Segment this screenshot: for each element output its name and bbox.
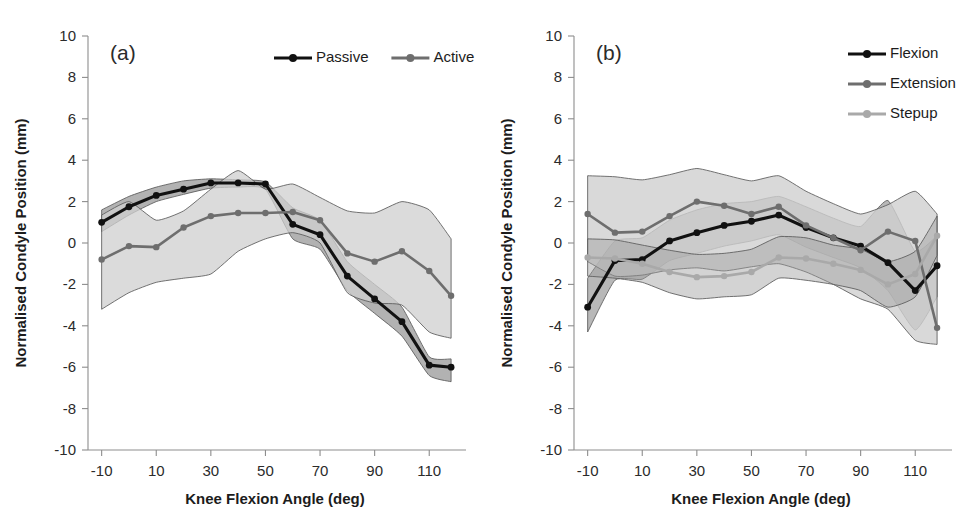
legend-label: Extension (890, 74, 956, 91)
data-point-marker (371, 258, 377, 264)
legend-group: FlexionExtensionStepup (848, 44, 956, 121)
x-tick-label: 50 (257, 462, 274, 479)
data-point-marker (776, 254, 782, 260)
data-point-marker (235, 180, 242, 187)
x-tick-label: 10 (148, 462, 165, 479)
data-point-marker (207, 180, 214, 187)
x-tick-label: 110 (903, 462, 927, 479)
y-tick-label: 6 (554, 110, 562, 127)
data-point-marker (426, 268, 432, 274)
data-point-marker (448, 364, 455, 371)
y-tick-label: 8 (68, 68, 76, 85)
legend-label: Passive (316, 48, 369, 65)
data-point-marker (426, 362, 433, 369)
data-point-marker (857, 267, 863, 273)
x-tick-label: 90 (366, 462, 383, 479)
data-point-marker (98, 219, 105, 226)
y-tick-label: 10 (545, 27, 562, 44)
legend-entry-flexion[interactable]: Flexion (848, 44, 938, 61)
data-point-marker (153, 244, 159, 250)
x-tick-label: 10 (634, 462, 651, 479)
data-point-marker (912, 271, 918, 277)
y-tick-label: 10 (59, 27, 76, 44)
data-point-marker (830, 235, 836, 241)
data-point-marker (721, 273, 727, 279)
data-point-marker (721, 222, 728, 229)
data-point-marker (666, 238, 673, 245)
legend-marker-icon (863, 110, 871, 118)
data-point-marker (748, 269, 754, 275)
data-point-marker (448, 293, 454, 299)
data-point-marker (776, 204, 782, 210)
data-point-marker (235, 210, 241, 216)
confidence-bands-group (588, 168, 937, 344)
data-point-marker (803, 222, 809, 228)
legend-label: Active (433, 48, 474, 65)
data-point-marker (693, 229, 700, 236)
data-point-marker (912, 287, 919, 294)
x-tick-label: 30 (689, 462, 706, 479)
panel-label: (a) (110, 41, 136, 64)
panel-b-svg: 1086420-2-4-6-8-10-101030507090110Knee F… (486, 0, 972, 526)
data-point-marker (694, 198, 700, 204)
data-point-marker (98, 256, 104, 262)
x-axis-title: Knee Flexion Angle (deg) (185, 490, 364, 507)
legend-entry-extension[interactable]: Extension (848, 74, 956, 91)
data-point-marker (775, 212, 782, 219)
legend-entry-active[interactable]: Active (391, 48, 474, 65)
data-point-marker (584, 211, 590, 217)
x-axis-title: Knee Flexion Angle (deg) (671, 490, 850, 507)
data-point-marker (830, 261, 836, 267)
legend-entry-stepup[interactable]: Stepup (848, 104, 938, 121)
x-tick-label: 70 (312, 462, 329, 479)
data-point-marker (721, 203, 727, 209)
data-point-marker (371, 295, 378, 302)
data-point-marker (262, 181, 269, 188)
legend-label: Flexion (890, 44, 938, 61)
data-point-marker (399, 248, 405, 254)
data-point-marker (639, 228, 645, 234)
data-point-marker (126, 203, 133, 210)
panel-a-svg: 1086420-2-4-6-8-10-101030507090110Knee F… (0, 0, 486, 526)
data-point-marker (612, 229, 618, 235)
data-point-marker (748, 211, 754, 217)
data-point-marker (208, 213, 214, 219)
y-tick-label: -8 (549, 400, 562, 417)
x-tick-label: 70 (798, 462, 815, 479)
data-point-marker (666, 269, 672, 275)
data-point-marker (584, 304, 591, 311)
figure-root: 1086420-2-4-6-8-10-101030507090110Knee F… (0, 0, 973, 526)
chart-panel-a: 1086420-2-4-6-8-10-101030507090110Knee F… (0, 0, 486, 526)
y-tick-label: 0 (554, 234, 562, 251)
y-tick-label: 6 (68, 110, 76, 127)
data-point-marker (584, 254, 590, 260)
legend-entry-passive[interactable]: Passive (274, 48, 369, 65)
data-point-marker (934, 325, 940, 331)
data-point-marker (126, 243, 132, 249)
y-tick-label: -10 (540, 441, 562, 458)
legend-marker-icon (863, 50, 871, 58)
data-point-marker (803, 255, 809, 261)
legend-marker-icon (406, 54, 414, 62)
data-point-marker (694, 274, 700, 280)
data-point-marker (153, 192, 160, 199)
data-point-marker (885, 228, 891, 234)
y-axis-title: Normalised Condyle Position (mm) (12, 118, 29, 367)
data-point-marker (934, 262, 941, 269)
legend-marker-icon (863, 80, 871, 88)
y-tick-label: 0 (68, 234, 76, 251)
y-axis-title: Normalised Condyle Position (mm) (498, 118, 515, 367)
data-point-marker (857, 247, 863, 253)
legend-group: PassiveActive (274, 48, 474, 65)
y-tick-label: 2 (554, 193, 562, 210)
y-tick-label: -2 (549, 275, 562, 292)
y-tick-label: -4 (549, 317, 562, 334)
legend-label: Stepup (890, 104, 938, 121)
legend-marker-icon (289, 54, 297, 62)
x-tick-label: 90 (852, 462, 869, 479)
data-point-marker (639, 261, 645, 267)
x-tick-label: -10 (577, 462, 599, 479)
data-point-marker (934, 233, 940, 239)
x-tick-label: 50 (743, 462, 760, 479)
x-tick-label: 110 (417, 462, 441, 479)
